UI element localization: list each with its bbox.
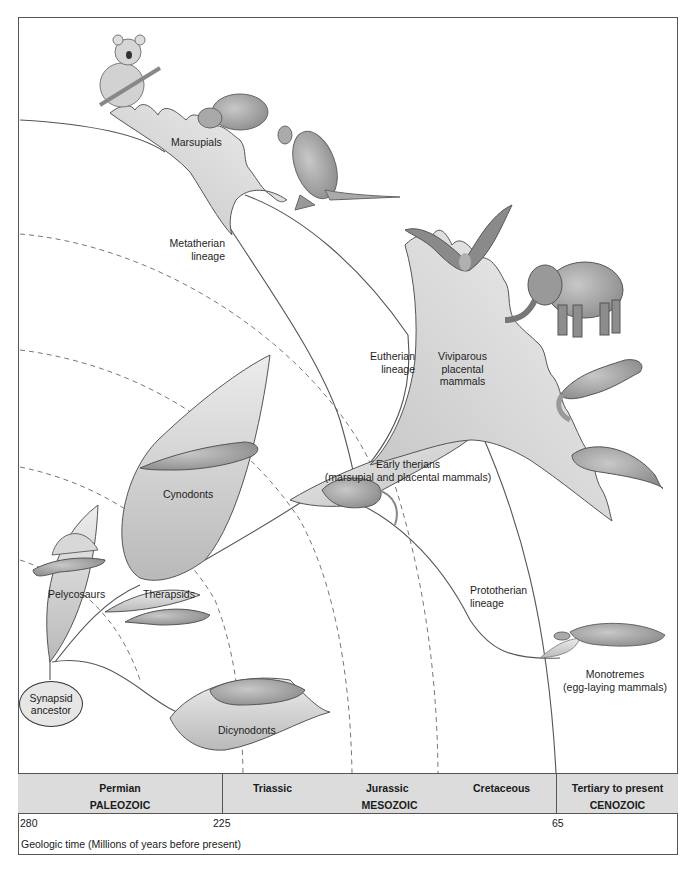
wombat-icon [198,94,268,130]
cynodonts-label: Cynodonts [163,488,213,501]
period-triassic: Triassic [253,782,292,794]
synapsid-ancestor-node: Synapsid ancestor [19,681,83,727]
tick-225: 225 [213,817,231,829]
placentals-label: Viviparous placental mammals [425,350,500,388]
elephant-icon [505,262,623,337]
phylogeny-diagram [0,0,690,869]
metatherian-lineage-label: Metatherian lineage [167,237,225,262]
period-jurassic: Jurassic [366,782,409,794]
pelycosaurs-shape [47,505,98,662]
axis-title: Geologic time (Millions of years before … [21,838,241,850]
therapsids-label: Therapsids [143,588,195,601]
tick-280: 280 [20,817,38,829]
early-therians-label: Early therians (marsupial and placental … [318,458,498,483]
era-cenozoic: CENOZOIC [557,799,678,811]
monotremes-label: Monotremes (egg-laying mammals) [555,668,675,693]
therapsid-icon [125,609,210,625]
paleozoic-cell: Permian PALEOZOIC [18,774,222,814]
ferret-icon [559,360,642,420]
period-tertiary: Tertiary to present [557,782,678,794]
cenozoic-cell: Tertiary to present CENOZOIC [557,774,678,814]
tick-65: 65 [552,817,564,829]
kangaroo-icon [278,125,400,210]
era-paleozoic: PALEOZOIC [18,799,222,811]
period-permian: Permian [18,782,222,794]
prototherian-lineage-label: Prototherian lineage [470,584,527,609]
lineage-lines [20,120,560,773]
eutherian-lineage-label: Eutherian lineage [360,350,415,375]
koala-icon [100,35,160,107]
marsupials-label: Marsupials [171,136,222,149]
period-cretaceous: Cretaceous [473,782,530,794]
era-mesozoic: MESOZOIC [223,799,556,811]
dicynodonts-label: Dicynodonts [218,724,276,737]
pelycosaurs-label: Pelycosaurs [48,588,105,601]
monotremes-shape [540,638,580,658]
mesozoic-cell: Triassic Jurassic Cretaceous MESOZOIC [223,774,556,814]
geologic-timescale: Permian PALEOZOIC Triassic Jurassic Cret… [18,773,678,814]
